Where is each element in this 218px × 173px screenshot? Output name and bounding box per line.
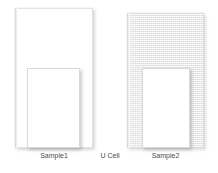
sample2-inner-window — [142, 68, 190, 148]
diagram-canvas: Sample1 U Cell Sample2 — [0, 0, 218, 173]
sample1-left-edge-highlight — [15, 8, 18, 148]
caption-sample1: Sample1 — [15, 151, 93, 160]
caption-sample2: Sample2 — [127, 151, 204, 160]
caption-u-cell: U Cell — [94, 151, 126, 160]
sample1-inner-window — [27, 68, 80, 148]
sample2-left-edge-highlight — [127, 13, 130, 148]
